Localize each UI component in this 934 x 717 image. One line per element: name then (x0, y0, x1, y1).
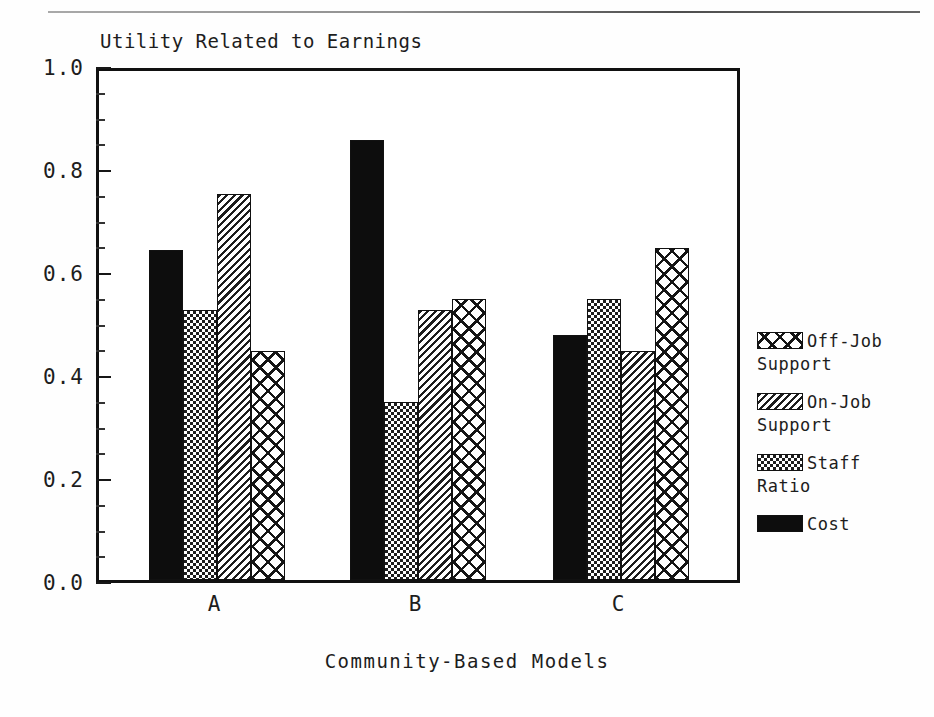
y-axis-minor-tick (96, 325, 105, 327)
y-axis-minor-tick (96, 93, 105, 95)
y-axis-major-tick (96, 273, 111, 275)
legend-entry: Off-Job Support (757, 330, 934, 376)
legend-swatch-icon (757, 515, 803, 532)
legend-entry: Staff Ratio (757, 452, 934, 498)
y-axis-minor-tick (96, 119, 105, 121)
bar (553, 335, 587, 580)
y-axis-minor-tick (96, 350, 105, 352)
y-axis-major-tick (96, 582, 111, 584)
plot-area (96, 68, 740, 583)
x-axis-tick-label: A (208, 592, 221, 616)
bar (587, 299, 621, 580)
y-axis-major-tick (96, 170, 111, 172)
bar (418, 310, 452, 580)
y-axis-minor-tick (96, 144, 105, 146)
legend-label: Cost (807, 514, 850, 534)
y-axis-tick-label: 0.0 (43, 571, 84, 595)
y-axis: 0.00.20.40.60.81.0 (0, 0, 96, 717)
y-axis-tick-label: 1.0 (43, 56, 84, 80)
bar (384, 402, 418, 580)
bar (621, 351, 655, 580)
y-axis-minor-tick (96, 196, 105, 198)
y-axis-minor-tick (96, 531, 105, 533)
bar (452, 299, 486, 580)
bar (655, 248, 689, 580)
legend-entry: On-Job Support (757, 391, 934, 437)
legend-entry: Cost (757, 513, 934, 559)
y-axis-minor-tick (96, 402, 105, 404)
chart-legend: Off-Job SupportOn-Job SupportStaff Ratio… (757, 330, 934, 574)
x-axis-tick-label: C (612, 592, 625, 616)
y-axis-tick-label: 0.6 (43, 262, 84, 286)
y-axis-minor-tick (96, 556, 105, 558)
y-axis-major-tick (96, 67, 111, 69)
y-axis-minor-tick (96, 222, 105, 224)
y-axis-minor-tick (96, 428, 105, 430)
y-axis-tick-label: 0.4 (43, 365, 84, 389)
legend-swatch-icon (757, 332, 803, 349)
y-axis-minor-tick (96, 453, 105, 455)
chart-page: Utility Related to Earnings 0.00.20.40.6… (0, 0, 934, 717)
y-axis-minor-tick (96, 247, 105, 249)
x-axis-title: Community-Based Models (325, 650, 610, 672)
bar (183, 310, 217, 580)
bar (350, 140, 384, 580)
legend-swatch-icon (757, 393, 803, 410)
y-axis-minor-tick (96, 299, 105, 301)
chart-title: Utility Related to Earnings (100, 30, 422, 52)
bar (217, 194, 251, 580)
bar (149, 250, 183, 580)
bar (251, 351, 285, 580)
y-axis-tick-label: 0.2 (43, 468, 84, 492)
page-top-rule (48, 11, 920, 13)
x-axis-tick-label: B (409, 592, 422, 616)
y-axis-minor-tick (96, 505, 105, 507)
y-axis-major-tick (96, 479, 111, 481)
y-axis-major-tick (96, 376, 111, 378)
y-axis-tick-label: 0.8 (43, 159, 84, 183)
legend-swatch-icon (757, 454, 803, 471)
